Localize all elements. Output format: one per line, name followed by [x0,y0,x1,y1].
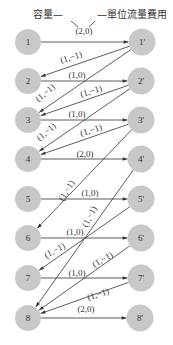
node-label: 7 [26,273,31,283]
node-8: 8 [15,305,41,331]
edge-label: (2,0) [75,26,92,36]
edge-label: (2,0) [76,149,93,159]
edge-label: (1,−1) [79,83,103,99]
network-flow-diagram: 容量— —單位流量費用 123456781'2'3'4'5'6'7'8' (2,… [0,0,173,345]
edge-label: (1,0) [81,188,98,198]
node-1p: 1' [129,29,156,56]
node-label: 4 [26,154,31,164]
edge-label: (1,−1) [80,204,99,228]
node-5: 5 [15,186,41,212]
node-label: 8 [26,313,31,323]
edge-label: (1,0) [66,227,83,237]
node-label: 8' [137,313,144,323]
node-label: 6' [138,233,145,243]
edge-label: (1,−1) [79,122,103,138]
edge-label: (1,0) [68,70,85,80]
node-label: 3' [138,115,145,125]
node-label: 2 [26,76,31,86]
node-label: 3 [26,115,31,125]
node-2: 2 [15,68,41,94]
node-8p: 8' [127,305,154,332]
node-5p: 5' [128,186,155,213]
node-label: 4' [138,154,145,164]
unit-cost-annotation: —單位流量費用 [97,8,167,20]
node-label: 2' [138,76,145,86]
edge-label: (1,−1) [42,241,66,260]
node-4: 4 [15,146,41,172]
edge-label: (2,0) [77,304,94,314]
node-4p: 4' [128,146,155,173]
node-label: 5' [138,194,145,204]
node-7p: 7' [128,265,155,292]
node-1: 1 [15,29,41,55]
edge-label: (1,−1) [90,249,114,269]
edge-label: (1,0) [68,268,85,278]
node-3p: 3' [128,107,155,134]
node-label: 6 [26,233,31,243]
node-2p: 2' [128,68,155,95]
node-7: 7 [15,265,41,291]
node-6: 6 [15,225,41,251]
node-6p: 6' [128,225,155,252]
edge-label: (1,−1) [86,286,110,302]
node-3: 3 [15,107,41,133]
edge-label: (1,−1) [59,49,83,65]
capacity-annotation: 容量— [33,8,63,20]
node-label: 1 [26,37,31,47]
node-label: 1' [139,37,146,47]
edge-label: (1,0) [68,109,85,119]
node-label: 7' [138,273,145,283]
node-label: 5 [26,194,31,204]
